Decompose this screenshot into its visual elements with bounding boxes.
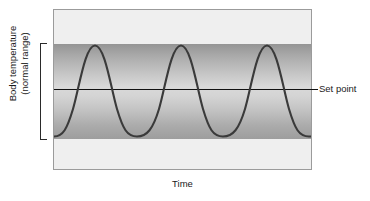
x-axis-label: Time bbox=[53, 178, 312, 190]
thermoregulation-figure: Set point Body temperature (normal range… bbox=[0, 0, 370, 201]
y-axis-label-line-2: (normal range) bbox=[18, 0, 30, 129]
plot-area bbox=[53, 9, 312, 170]
plot-overlay bbox=[54, 10, 311, 169]
y-axis-label-line-1: Body temperature bbox=[7, 0, 19, 129]
y-axis-label: Body temperature (normal range) bbox=[7, 0, 30, 129]
normal-range-bracket bbox=[40, 43, 47, 140]
set-point-label: Set point bbox=[319, 83, 357, 95]
set-point-leader-line bbox=[311, 89, 318, 90]
body-temperature-wave bbox=[54, 46, 311, 137]
